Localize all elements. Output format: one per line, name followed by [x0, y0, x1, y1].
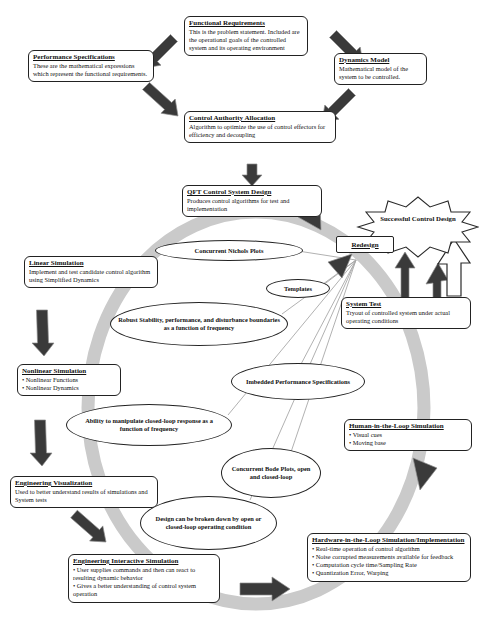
box-title: Hardware-in-the-Loop Simulation/Implemen… [312, 536, 466, 545]
box-system-test: System Test Tryout of controlled system … [341, 297, 471, 329]
success-starburst-label: Successful Control Design [372, 215, 464, 224]
ellipse-design-breakdown: Design can be broken down by open or clo… [140, 496, 277, 550]
box-bullet: Nonlinear Functions [22, 376, 116, 384]
ellipse-robust-stability: Robust Stability, performance, and distu… [110, 302, 288, 346]
box-title: Dynamics Model [339, 56, 422, 65]
box-linear-simulation: Linear Simulation Implement and test can… [24, 256, 158, 288]
box-title: Engineering Interactive Simulation [73, 557, 215, 566]
box-title: System Test [346, 300, 466, 309]
box-performance-specifications: Performance Specifications These are the… [28, 50, 154, 82]
box-bullet: Quantization Error, Warping [312, 569, 466, 577]
box-bullet: Computation cycle time/Sampling Rate [312, 561, 466, 569]
ellipse-concurrent-nichols-plots: Concurrent Nichols Plots [155, 240, 303, 261]
arrow-eng-viz-to-interactive [71, 510, 106, 542]
box-body: This is the problem statement. Included … [189, 28, 303, 53]
ellipse-imbedded-performance-specifications: Imbedded Performance Specifications [231, 363, 365, 400]
box-bullet: Moving base [349, 439, 467, 447]
ellipse-concurrent-bode-plots: Concurrent Bode Plots, open and closed-l… [221, 448, 321, 498]
box-functional-requirements: Functional Requirements This is the prob… [184, 16, 308, 56]
box-human-in-the-loop-simulation: Human-in-the-Loop Simulation Visual cues… [344, 419, 472, 451]
box-bullet: Visual cues [349, 431, 467, 439]
box-bullet: User supplies commands and then can reac… [73, 566, 215, 582]
box-engineering-interactive-simulation: Engineering Interactive Simulation User … [68, 554, 220, 603]
box-title: Control Authority Allocation [189, 114, 331, 123]
box-bullet: Noise corrupted measurements available f… [312, 553, 466, 561]
box-body: These are the mathematical expressions w… [33, 62, 149, 78]
box-title: Functional Requirements [189, 19, 303, 28]
box-control-authority-allocation: Control Authority Allocation Algorithm t… [184, 111, 336, 143]
box-body: Implement and test candidate control alg… [29, 268, 153, 284]
ellipse-templates: Templates [266, 279, 330, 298]
box-title: Linear Simulation [29, 259, 153, 268]
arrow-nonlinear-to-eng-viz [30, 420, 52, 466]
box-bullet: Gives a better understanding of control … [73, 582, 215, 598]
box-body: Mathematical model of the system to be c… [339, 65, 422, 81]
box-title: Performance Specifications [33, 53, 149, 62]
ellipse-ability-to-manipulate: Ability to manipulate closed-loop respon… [66, 404, 232, 446]
box-bullet: Nonlinear Dynamics [22, 384, 116, 392]
box-title: Engineering Visualization [15, 479, 153, 488]
box-nonlinear-simulation: Nonlinear Simulation Nonlinear Functions… [17, 364, 121, 396]
box-dynamics-model: Dynamics Model Mathematical model of the… [334, 53, 427, 85]
box-title: Nonlinear Simulation [22, 367, 116, 376]
box-bullet: Real-time operation of control algorithm [312, 545, 466, 553]
qft-design-process-diagram: { "colors": { "ring": "#cacaca", "arrow_… [0, 0, 479, 631]
box-engineering-visualization: Engineering Visualization Used to better… [10, 476, 158, 508]
box-hardware-in-the-loop: Hardware-in-the-Loop Simulation/Implemen… [307, 533, 471, 582]
box-body: Algorithm to optimize the use of control… [189, 123, 331, 139]
arrow-authority-to-qft [242, 164, 262, 186]
box-redesign: Redesign [336, 236, 394, 253]
box-body: Produces control algorithms for test and… [187, 197, 317, 213]
box-body: Tryout of controlled system under actual… [346, 309, 466, 325]
arrow-linear-to-nonlinear [32, 310, 54, 356]
box-qft-control-system-design: QFT Control System Design Produces contr… [182, 185, 322, 217]
box-title: Human-in-the-Loop Simulation [349, 422, 467, 431]
box-title: QFT Control System Design [187, 188, 317, 197]
box-body: Used to better understand results of sim… [15, 488, 153, 504]
arrow-perf-spec-to-authority [143, 83, 179, 117]
